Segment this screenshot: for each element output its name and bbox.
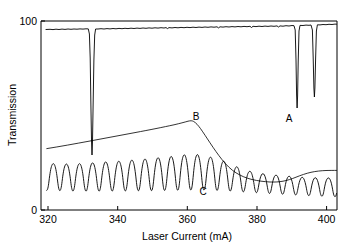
y-axis-title: Transmission <box>6 84 18 146</box>
trace-c-etalon-fringes <box>47 155 337 197</box>
trace-b-envelope <box>47 121 337 182</box>
y-tick-label-0: 0 <box>31 204 37 216</box>
x-tick-label-380: 380 <box>248 213 266 225</box>
transmission-spectrum-chart: 100 0 320 340 360 380 400 Laser Current … <box>0 0 351 249</box>
x-axis-title: Laser Current (mA) <box>142 230 232 242</box>
annotation-label-a: A <box>286 113 293 124</box>
annotation-label-b: B <box>193 111 200 122</box>
trace-a-transmission <box>46 24 337 155</box>
y-tick-label-100: 100 <box>19 15 37 27</box>
x-tick-label-340: 340 <box>109 213 127 225</box>
x-tick-label-320: 320 <box>39 213 57 225</box>
x-tick-label-360: 360 <box>179 213 197 225</box>
annotation-label-c: C <box>199 186 206 197</box>
figure-container: 100 0 320 340 360 380 400 Laser Current … <box>0 0 351 249</box>
x-tick-label-400: 400 <box>318 213 336 225</box>
